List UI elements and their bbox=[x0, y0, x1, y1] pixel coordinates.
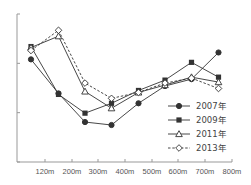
legend-label: 2013年 bbox=[196, 143, 227, 153]
legend-item: 2013年 bbox=[168, 143, 227, 153]
x-tick-label: 700m bbox=[196, 167, 215, 176]
line-chart: 120m200m300m400m500m600m700m800m 2007年20… bbox=[0, 0, 251, 185]
x-tick-label: 200m bbox=[63, 167, 82, 176]
series-group bbox=[28, 27, 222, 128]
legend-label: 2007年 bbox=[196, 101, 227, 111]
x-tick-label: 800m bbox=[223, 167, 242, 176]
marker-circle-icon bbox=[28, 57, 33, 62]
x-tick-label: 400m bbox=[116, 167, 135, 176]
legend-item: 2011年 bbox=[168, 129, 227, 139]
marker-triangle-icon bbox=[82, 88, 89, 94]
x-tick-label: 120m bbox=[36, 167, 55, 176]
legend-item: 2009年 bbox=[168, 115, 227, 125]
marker-circle-icon bbox=[176, 103, 181, 108]
x-tick-label: 500m bbox=[143, 167, 162, 176]
marker-circle-icon bbox=[109, 122, 114, 127]
marker-diamond-icon bbox=[176, 145, 183, 152]
marker-diamond-icon bbox=[215, 85, 222, 92]
legend-label: 2009年 bbox=[196, 115, 227, 125]
marker-circle-icon bbox=[136, 101, 141, 106]
marker-circle-icon bbox=[82, 119, 87, 124]
marker-diamond-icon bbox=[108, 95, 115, 102]
marker-square-icon bbox=[82, 111, 87, 116]
marker-square-icon bbox=[56, 92, 61, 97]
x-tick-label: 600m bbox=[169, 167, 188, 176]
marker-square-icon bbox=[189, 60, 194, 65]
x-tick-label: 300m bbox=[89, 167, 108, 176]
legend-label: 2011年 bbox=[196, 129, 227, 139]
marker-diamond-icon bbox=[82, 80, 89, 87]
marker-diamond-icon bbox=[55, 27, 62, 34]
legend: 2007年2009年2011年2013年 bbox=[168, 101, 227, 153]
marker-circle-icon bbox=[216, 50, 221, 55]
marker-square-icon bbox=[176, 117, 181, 122]
legend-item: 2007年 bbox=[168, 101, 227, 111]
series-2011年 bbox=[28, 33, 222, 111]
